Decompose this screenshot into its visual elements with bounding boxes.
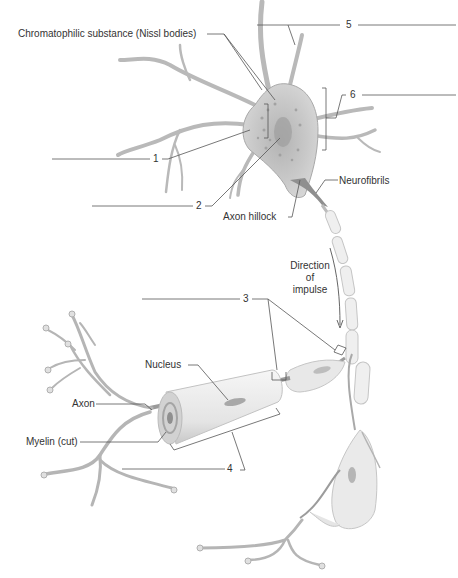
label-axon-hillock: Axon hillock bbox=[223, 211, 276, 223]
schwann-cell-upper bbox=[286, 360, 345, 392]
neuron-diagram: Chromatophilic substance (Nissl bodies) … bbox=[0, 0, 458, 578]
cell-nucleus bbox=[274, 117, 292, 147]
blank-6-number: 6 bbox=[350, 89, 356, 101]
blank-3-number: 3 bbox=[243, 293, 249, 305]
direction-line-2: of bbox=[288, 272, 332, 284]
direction-line-1: Direction bbox=[288, 260, 332, 272]
blank-5-number: 5 bbox=[346, 19, 352, 31]
label-myelin-cut: Myelin (cut) bbox=[26, 436, 78, 448]
label-axon: Axon bbox=[72, 398, 95, 410]
neuron-illustration bbox=[0, 0, 458, 578]
axon-terminals-bottom bbox=[200, 520, 320, 565]
label-neurofibrils: Neurofibrils bbox=[339, 175, 390, 187]
axon-terminals-left bbox=[45, 315, 172, 505]
blank-1-number: 1 bbox=[153, 153, 159, 165]
direction-line-3: impulse bbox=[288, 284, 332, 296]
blank-4-number: 4 bbox=[227, 463, 233, 475]
blank-2-number: 2 bbox=[196, 200, 202, 212]
label-nissl-bodies: Chromatophilic substance (Nissl bodies) bbox=[18, 28, 196, 40]
label-nucleus: Nucleus bbox=[145, 359, 181, 371]
label-direction-of-impulse: Direction of impulse bbox=[288, 260, 332, 296]
